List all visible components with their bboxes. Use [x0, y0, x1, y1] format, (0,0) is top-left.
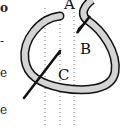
- label-b: B: [80, 42, 91, 57]
- label-c: C: [58, 68, 69, 83]
- margin-fragment-4: e: [0, 104, 7, 116]
- margin-fragment-3: e: [0, 67, 7, 79]
- label-a: A: [64, 0, 75, 12]
- stitch-diagram: A B C o - e e: [0, 0, 122, 133]
- margin-fragment-1: o: [0, 2, 8, 14]
- margin-fragment-2: -: [0, 35, 4, 47]
- thread-loop: [25, 0, 116, 90]
